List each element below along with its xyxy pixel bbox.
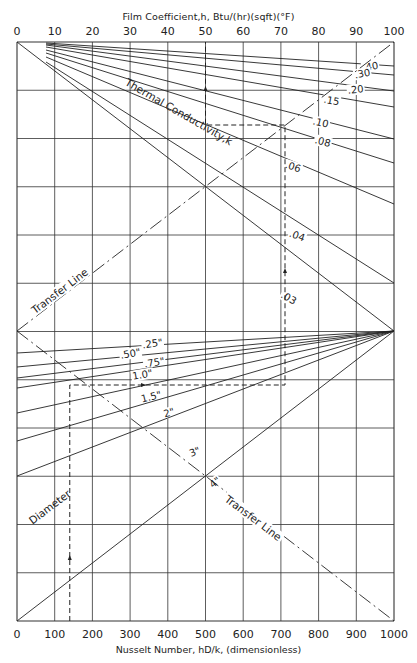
k-line — [46, 47, 394, 107]
top-tick-label: 60 — [236, 25, 250, 38]
k-line — [46, 43, 394, 66]
bottom-tick-label: 1000 — [380, 628, 408, 641]
k-line-label: .30 — [354, 67, 372, 81]
top-tick-label: 30 — [123, 25, 137, 38]
k-line-label: .15 — [323, 94, 341, 108]
diameter-label: Diameter — [26, 487, 73, 526]
top-tick-label: 80 — [312, 25, 326, 38]
nomograph-chart: 0102030405060708090100010020030040050060… — [0, 0, 417, 663]
thermal-conductivity-label: Thermal Conductivity,k — [122, 75, 235, 147]
diameter-line-label: .25" — [142, 337, 164, 351]
arrow-icon — [68, 555, 72, 560]
top-tick-label: 10 — [48, 25, 62, 38]
k-line — [46, 45, 394, 91]
bottom-tick-label: 900 — [346, 628, 367, 641]
k-line — [46, 53, 394, 163]
k-line-label: .08 — [314, 134, 332, 149]
top-tick-label: 40 — [161, 25, 175, 38]
bottom-tick-label: 200 — [82, 628, 103, 641]
top-tick-label: 0 — [14, 25, 21, 38]
arrow-icon — [141, 383, 146, 387]
top-tick-label: 100 — [384, 25, 405, 38]
bottom-tick-label: 400 — [157, 628, 178, 641]
bottom-tick-label: 700 — [270, 628, 291, 641]
bottom-tick-label: 800 — [308, 628, 329, 641]
bottom-tick-label: 300 — [120, 628, 141, 641]
top-tick-label: 90 — [349, 25, 363, 38]
bottom-tick-label: 600 — [233, 628, 254, 641]
k-line-label: .06 — [284, 159, 303, 174]
k-line — [46, 44, 394, 75]
transfer-line-label: Transfer Line — [28, 266, 90, 317]
k-line-label: .10 — [312, 115, 330, 129]
top-tick-label: 50 — [199, 25, 213, 38]
diameter-line-label: .50" — [119, 346, 141, 360]
diameter-line-label: 4" — [207, 475, 222, 490]
top-tick-label: 20 — [85, 25, 99, 38]
axis-tick-labels: 0102030405060708090100010020030040050060… — [14, 25, 409, 641]
k-line — [46, 50, 394, 139]
k-line-label: .20 — [347, 83, 364, 95]
diameter-line-label: 3" — [188, 445, 202, 459]
k-line — [46, 62, 394, 283]
arrow-icon — [283, 268, 287, 273]
arrow-icon — [204, 86, 208, 91]
bottom-tick-label: 0 — [14, 628, 21, 641]
bottom-tick-label: 500 — [195, 628, 216, 641]
bottom-tick-label: 100 — [44, 628, 65, 641]
top-tick-label: 70 — [274, 25, 288, 38]
transfer-line-label: Transfer Line — [222, 492, 284, 543]
